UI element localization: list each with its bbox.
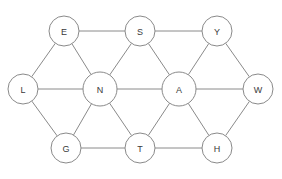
- node-circle-w: [243, 74, 273, 104]
- node-circle-y: [202, 16, 232, 46]
- graph-node-l[interactable]: L: [8, 74, 38, 104]
- node-circle-e: [49, 16, 79, 46]
- graph-node-h[interactable]: H: [202, 133, 232, 163]
- node-circle-t: [125, 133, 155, 163]
- graph-edge-w-h: [226, 101, 250, 135]
- graph-diagram: ESYLNAWGTH: [0, 0, 282, 179]
- node-circle-g: [51, 133, 81, 163]
- graph-edge-y-a: [188, 44, 208, 75]
- edge-layer: [32, 31, 250, 148]
- graph-node-w[interactable]: W: [243, 74, 273, 104]
- graph-edge-a-h: [188, 103, 209, 135]
- node-circle-n: [83, 72, 117, 106]
- graph-node-a[interactable]: A: [162, 72, 196, 106]
- graph-node-n[interactable]: N: [83, 72, 117, 106]
- graph-edge-e-n: [72, 44, 91, 75]
- node-circle-l: [8, 74, 38, 104]
- graph-edge-s-n: [110, 43, 132, 75]
- graph-edge-e-l: [32, 43, 56, 77]
- graph-node-y[interactable]: Y: [202, 16, 232, 46]
- node-circle-h: [202, 133, 232, 163]
- node-circle-a: [162, 72, 196, 106]
- graph-node-g[interactable]: G: [51, 133, 81, 163]
- graph-edge-a-t: [148, 103, 169, 135]
- graph-node-t[interactable]: T: [125, 133, 155, 163]
- node-circle-s: [125, 16, 155, 46]
- graph-node-e[interactable]: E: [49, 16, 79, 46]
- graph-edge-s-a: [148, 43, 169, 74]
- graph-edge-l-g: [32, 101, 57, 136]
- graph-edge-n-t: [110, 103, 132, 136]
- graph-edge-n-g: [73, 104, 91, 135]
- graph-node-s[interactable]: S: [125, 16, 155, 46]
- graph-edge-y-w: [226, 43, 250, 77]
